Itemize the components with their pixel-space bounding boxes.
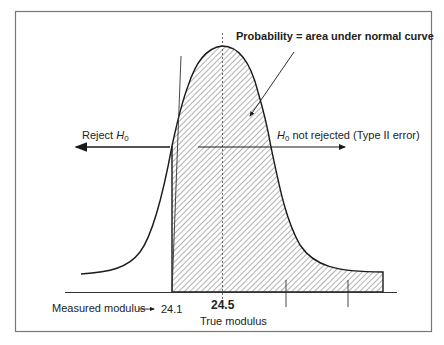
h-subscript: 0: [124, 134, 128, 143]
measured-value: 24.1: [161, 303, 182, 315]
reject-h0-label: Reject H0: [82, 129, 129, 141]
h-symbol: H: [116, 129, 124, 141]
h-symbol: H: [277, 129, 285, 141]
curve-left-tail: [81, 146, 172, 274]
true-modulus-label: True modulus: [200, 315, 267, 327]
reject-text: Reject: [82, 129, 116, 141]
not-rejected-label: H0 not rejected (Type II error): [277, 129, 420, 141]
probability-pointer: [250, 52, 294, 116]
shaded-area: [172, 46, 383, 292]
measured-modulus-label: Measured modulus: [52, 302, 146, 314]
not-rejected-text: not rejected (Type II error): [289, 129, 419, 141]
normal-curve-diagram: [0, 0, 444, 345]
true-value: 24.5: [211, 299, 234, 311]
probability-title: Probability = area under normal curve: [236, 30, 434, 42]
